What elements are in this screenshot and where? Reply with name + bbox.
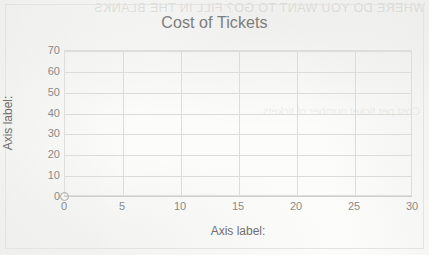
y-tick-60: 60	[34, 65, 60, 77]
y-tick-20: 20	[34, 148, 60, 160]
x-tick-20: 20	[281, 200, 311, 212]
y-axis-tick-labels: 70 60 50 40 30 20 10 0	[30, 50, 60, 196]
x-axis-title: Axis label:	[64, 224, 412, 238]
y-axis-title-text: Axis label:	[1, 96, 15, 151]
series-baseline	[64, 196, 412, 197]
gridline-y-40	[65, 114, 411, 115]
y-tick-30: 30	[34, 127, 60, 139]
x-tick-5: 5	[107, 200, 137, 212]
gridline-y-70	[65, 51, 411, 52]
gridline-y-30	[65, 134, 411, 135]
x-tick-10: 10	[165, 200, 195, 212]
gridline-y-60	[65, 72, 411, 73]
gridline-y-50	[65, 93, 411, 94]
y-axis-title: Axis label:	[0, 50, 16, 196]
gridline-y-20	[65, 155, 411, 156]
y-tick-70: 70	[34, 44, 60, 56]
x-tick-15: 15	[223, 200, 253, 212]
chart-page: WHERE DO YOU WANT TO GO? FILL IN THE BLA…	[0, 0, 429, 255]
plot-area	[64, 50, 412, 196]
x-axis-tick-labels: 0 5 10 15 20 25 30	[64, 200, 412, 216]
gridline-x-5	[123, 51, 124, 195]
gridline-y-10	[65, 176, 411, 177]
x-tick-30: 30	[397, 200, 427, 212]
gridline-x-25	[355, 51, 356, 195]
x-tick-0: 0	[49, 200, 79, 212]
y-tick-40: 40	[34, 107, 60, 119]
gridline-x-10	[181, 51, 182, 195]
gridline-x-20	[297, 51, 298, 195]
y-tick-50: 50	[34, 86, 60, 98]
chart-title: Cost of Tickets	[0, 14, 429, 32]
gridline-x-15	[239, 51, 240, 195]
y-tick-10: 10	[34, 169, 60, 181]
x-tick-25: 25	[339, 200, 369, 212]
